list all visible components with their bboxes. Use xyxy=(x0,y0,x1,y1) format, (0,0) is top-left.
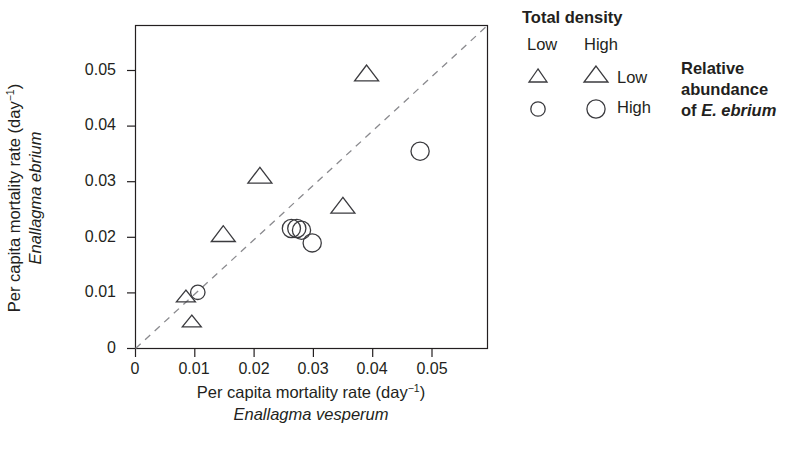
legend-side-note-line2: abundance xyxy=(681,80,768,98)
legend-icon-circle-large xyxy=(587,100,605,118)
legend-row-label-low: Low xyxy=(617,68,647,87)
legend-side-note-line3-prefix: of xyxy=(681,101,701,119)
scatter-plot-figure: 0 0.01 0.02 0.03 0.04 0.05 0 0.01 0.02 0… xyxy=(0,0,792,449)
legend-side-note-line1: Relative xyxy=(681,59,744,77)
legend-title: Total density xyxy=(522,8,623,27)
legend-side-note-species: E. ebrium xyxy=(701,101,776,119)
legend-side-note: Relative abundance of E. ebrium xyxy=(681,58,776,121)
legend-icon-triangle-large xyxy=(584,66,608,82)
legend-column-header-low: Low xyxy=(527,35,557,54)
chart-legend: Total density Low High Low High Relative… xyxy=(0,0,792,449)
legend-icon-circle-small xyxy=(531,102,545,116)
legend-row-label-high: High xyxy=(617,98,651,117)
legend-symbols xyxy=(515,62,695,137)
legend-column-header-high: High xyxy=(584,35,618,54)
legend-icon-triangle-small xyxy=(529,69,547,82)
